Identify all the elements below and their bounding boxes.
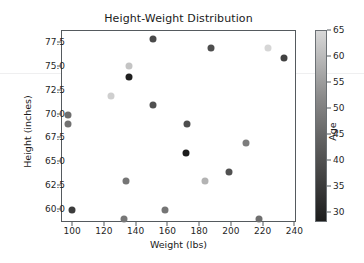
data-points-layer bbox=[62, 31, 295, 221]
y-axis-tick-mark bbox=[57, 208, 61, 209]
y-axis-tick-mark bbox=[57, 184, 61, 185]
x-axis-tick-mark bbox=[262, 222, 263, 226]
colorbar-tick-label: 65 bbox=[333, 25, 344, 35]
colorbar-tick-mark bbox=[327, 211, 331, 212]
x-axis-tick-mark bbox=[72, 222, 73, 226]
page-title: Height-Weight Distribution bbox=[61, 12, 296, 25]
data-point bbox=[149, 102, 156, 109]
data-point bbox=[65, 121, 72, 128]
colorbar-tick-label: 30 bbox=[333, 207, 344, 217]
x-axis-tick-label: 240 bbox=[286, 226, 303, 236]
data-point bbox=[162, 206, 169, 213]
x-axis-tick-label: 200 bbox=[222, 226, 239, 236]
data-point bbox=[208, 45, 215, 52]
y-axis-tick-label: 77.5 bbox=[45, 37, 65, 47]
data-point bbox=[68, 206, 75, 213]
y-axis-label: Height (inches) bbox=[22, 72, 33, 192]
data-point bbox=[125, 73, 132, 80]
y-axis-tick-label: 75.0 bbox=[45, 61, 65, 71]
x-axis-tick-mark bbox=[135, 222, 136, 226]
data-point bbox=[225, 168, 232, 175]
colorbar-gradient bbox=[315, 30, 327, 222]
data-point bbox=[108, 92, 115, 99]
x-axis-tick-label: 100 bbox=[64, 226, 81, 236]
x-axis-tick-mark bbox=[294, 222, 295, 226]
data-point bbox=[265, 45, 272, 52]
data-point bbox=[122, 178, 129, 185]
data-point bbox=[125, 63, 132, 70]
x-axis-label: Weight (lbs) bbox=[61, 239, 296, 250]
data-point bbox=[281, 54, 288, 61]
colorbar-tick-label: 35 bbox=[333, 181, 344, 191]
y-axis-tick-mark bbox=[57, 137, 61, 138]
y-axis-tick-label: 65.0 bbox=[45, 156, 65, 166]
y-axis-tick-label: 60.0 bbox=[45, 204, 65, 214]
x-axis-tick-mark bbox=[230, 222, 231, 226]
y-axis-tick-mark bbox=[57, 42, 61, 43]
data-point bbox=[201, 178, 208, 185]
x-axis-tick-label: 120 bbox=[95, 226, 112, 236]
colorbar-tick-label: 55 bbox=[333, 77, 344, 87]
data-point bbox=[120, 216, 127, 223]
colorbar bbox=[315, 30, 327, 222]
data-point bbox=[149, 35, 156, 42]
x-axis-tick-label: 160 bbox=[159, 226, 176, 236]
colorbar-tick-mark bbox=[327, 81, 331, 82]
data-point bbox=[65, 111, 72, 118]
x-axis-tick-label: 180 bbox=[191, 226, 208, 236]
y-axis-tick-label: 72.5 bbox=[45, 85, 65, 95]
x-axis-tick-label: 140 bbox=[127, 226, 144, 236]
y-axis-tick-mark bbox=[57, 89, 61, 90]
y-axis-tick-mark bbox=[57, 66, 61, 67]
y-axis-tick-mark bbox=[57, 161, 61, 162]
colorbar-tick-mark bbox=[327, 55, 331, 56]
y-axis-tick-mark bbox=[57, 113, 61, 114]
x-axis-tick-label: 220 bbox=[254, 226, 271, 236]
y-axis-tick-label: 70.0 bbox=[45, 109, 65, 119]
data-point bbox=[182, 149, 189, 156]
plot-area bbox=[61, 30, 296, 222]
x-axis-tick-mark bbox=[167, 222, 168, 226]
colorbar-tick-mark bbox=[327, 30, 331, 31]
y-axis-tick-label: 62.5 bbox=[45, 180, 65, 190]
colorbar-label: Age bbox=[327, 102, 338, 162]
x-axis-tick-mark bbox=[199, 222, 200, 226]
colorbar-tick-label: 60 bbox=[333, 51, 344, 61]
x-axis-tick-mark bbox=[103, 222, 104, 226]
colorbar-tick-mark bbox=[327, 185, 331, 186]
scatter-plot-figure: Height-Weight Distribution 60.062.565.06… bbox=[0, 0, 364, 263]
data-point bbox=[184, 121, 191, 128]
y-axis-tick-label: 67.5 bbox=[45, 132, 65, 142]
data-point bbox=[243, 140, 250, 147]
